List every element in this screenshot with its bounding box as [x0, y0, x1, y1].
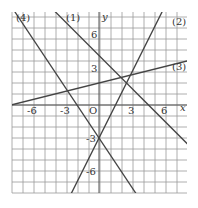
y-tick-label: 6 [91, 29, 97, 40]
line-1-label: (1) [66, 12, 80, 23]
x-tick-label: -6 [27, 105, 37, 116]
x-axis-label: x [180, 102, 186, 113]
y-tick-label: 3 [91, 63, 97, 74]
line-2-label: (2) [172, 16, 186, 27]
x-tick-label: -3 [60, 105, 70, 116]
line-3-label: (3) [172, 61, 186, 72]
line-4-label: (4) [16, 12, 30, 23]
coordinate-plane: x y O -6 -3 3 6 6 3 -3 -6 (1) (2) (3) (4… [0, 0, 198, 208]
origin-label: O [89, 105, 97, 116]
y-tick-label: -3 [86, 133, 96, 144]
y-tick-label: -6 [86, 166, 96, 177]
x-tick-label: 3 [128, 105, 134, 116]
x-tick-label: 6 [161, 105, 167, 116]
y-axis-label: y [101, 11, 108, 22]
